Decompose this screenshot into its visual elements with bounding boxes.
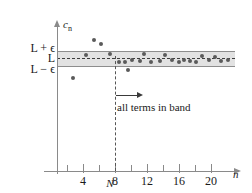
data-point — [213, 55, 217, 59]
data-point — [158, 59, 162, 63]
data-point — [219, 59, 223, 63]
x-tick-minor — [195, 165, 196, 172]
data-point — [92, 38, 96, 42]
data-point — [71, 76, 75, 80]
x-tick-minor — [131, 165, 132, 172]
data-point — [182, 58, 186, 62]
data-point — [207, 58, 211, 62]
y-label-lower: L − ϵ — [30, 62, 55, 77]
data-point — [99, 42, 103, 46]
x-axis-title: n — [233, 168, 239, 180]
data-point — [226, 58, 230, 62]
x-tick-minor — [99, 165, 100, 172]
data-point — [123, 60, 127, 64]
data-point — [194, 60, 198, 64]
y-axis-title-subscript: n — [68, 24, 72, 33]
band-upper-edge-line — [57, 51, 235, 52]
x-tick-label-20: 20 — [205, 174, 217, 189]
data-point — [163, 53, 167, 57]
threshold-label-N: N — [106, 177, 113, 189]
x-tick-label-12: 12 — [141, 174, 153, 189]
y-axis-title: cn — [63, 18, 72, 33]
data-point — [117, 60, 121, 64]
annotation-arrow-head-icon — [137, 92, 143, 98]
y-axis-line — [57, 26, 58, 174]
x-tick-minor — [67, 165, 68, 172]
data-point — [149, 60, 153, 64]
threshold-dashed-line-N — [115, 56, 116, 171]
data-point — [126, 68, 130, 72]
data-point — [170, 58, 174, 62]
x-tick-label-4: 4 — [80, 174, 86, 189]
data-point — [138, 59, 142, 63]
data-point — [84, 53, 88, 57]
x-tick-4 — [83, 164, 84, 173]
annotation-text: all terms in band — [117, 101, 191, 113]
convergence-band-figure: cn n L + ϵ L L − ϵ 4 8 12 16 20 N all te… — [0, 0, 252, 193]
data-point — [177, 60, 181, 64]
x-axis-line — [44, 171, 235, 172]
data-point — [200, 54, 204, 58]
data-point — [142, 52, 146, 56]
band-lower-edge-line — [57, 66, 235, 67]
x-tick-minor — [163, 165, 164, 172]
x-tick-label-16: 16 — [173, 174, 185, 189]
data-point — [108, 52, 112, 56]
data-point — [188, 59, 192, 63]
data-point — [130, 58, 134, 62]
x-tick-12 — [147, 164, 148, 173]
x-tick-20 — [211, 164, 212, 173]
x-tick-16 — [179, 164, 180, 173]
annotation-arrow-shaft — [116, 95, 138, 96]
y-axis-arrowhead-icon — [54, 20, 60, 27]
